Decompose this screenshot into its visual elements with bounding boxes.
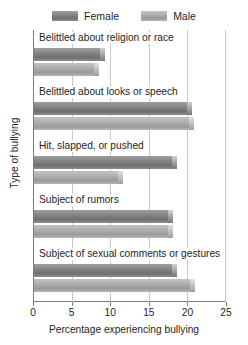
bar-male-2-body (34, 171, 119, 184)
chart-legend: Female Male (0, 6, 248, 26)
bar-female-1-body (34, 102, 188, 115)
category-label-2: Hit, slapped, or pushed (38, 140, 146, 152)
bar-male-3 (34, 225, 169, 238)
x-tick-label-10: 10 (95, 307, 125, 319)
bar-male-0-body (34, 63, 95, 76)
bar-male-1-body (34, 117, 190, 130)
x-tick-0 (33, 302, 34, 306)
bar-group-4: Subject of sexual comments or gestures (34, 246, 226, 302)
bar-female-4-cap (172, 264, 177, 277)
category-label-3: Subject of rumors (38, 194, 121, 206)
bullying-bar-chart: Female Male Belittled about religion or … (0, 0, 248, 345)
legend-swatch-male-icon (141, 11, 167, 21)
y-axis-title: Type of bullying (9, 83, 21, 223)
legend-entry-female: Female (52, 11, 119, 22)
bar-group-3: Subject of rumors (34, 192, 226, 246)
category-label-0: Belittled about religion or race (38, 32, 176, 44)
x-tick-label-20: 20 (172, 307, 202, 319)
x-tick-25 (226, 302, 227, 306)
bar-female-4 (34, 264, 173, 277)
category-label-4: Subject of sexual comments or gestures (38, 248, 222, 260)
bar-female-4-body (34, 264, 173, 277)
bar-female-3 (34, 210, 169, 223)
bar-male-4-cap (190, 279, 195, 292)
bar-female-0 (34, 48, 101, 61)
bar-group-2: Hit, slapped, or pushed (34, 138, 226, 192)
bar-female-2-cap (172, 156, 177, 169)
bar-male-3-cap (168, 225, 173, 238)
x-tick-label-5: 5 (57, 307, 87, 319)
bar-male-1-cap (189, 117, 194, 130)
bar-female-3-cap (168, 210, 173, 223)
bar-female-0-body (34, 48, 101, 61)
bar-male-1 (34, 117, 190, 130)
x-tick-20 (187, 302, 188, 306)
bar-male-4-body (34, 279, 191, 292)
bar-group-0: Belittled about religion or race (34, 30, 226, 84)
bar-male-0-cap (94, 63, 99, 76)
bar-female-2 (34, 156, 173, 169)
bar-male-4 (34, 279, 191, 292)
x-tick-label-15: 15 (134, 307, 164, 319)
x-tick-10 (110, 302, 111, 306)
x-tick-label-0: 0 (18, 307, 48, 319)
legend-label-male: Male (173, 11, 196, 22)
bar-male-2-cap (118, 171, 123, 184)
bar-group-1: Belittled about looks or speech (34, 84, 226, 138)
bar-female-3-body (34, 210, 169, 223)
category-label-1: Belittled about looks or speech (38, 86, 180, 98)
legend-entry-male: Male (141, 11, 196, 22)
legend-swatch-female-icon (52, 11, 78, 21)
x-tick-label-25: 25 (211, 307, 241, 319)
bar-male-0 (34, 63, 95, 76)
bar-female-1-cap (187, 102, 192, 115)
bar-female-2-body (34, 156, 173, 169)
bar-male-3-body (34, 225, 169, 238)
x-tick-15 (149, 302, 150, 306)
bar-female-0-cap (100, 48, 105, 61)
bar-male-2 (34, 171, 119, 184)
x-axis-title: Percentage experiencing bullying (0, 324, 248, 336)
bar-female-1 (34, 102, 188, 115)
x-tick-5 (72, 302, 73, 306)
plot-area: Belittled about religion or race Belittl… (33, 30, 226, 302)
legend-label-female: Female (84, 11, 119, 22)
